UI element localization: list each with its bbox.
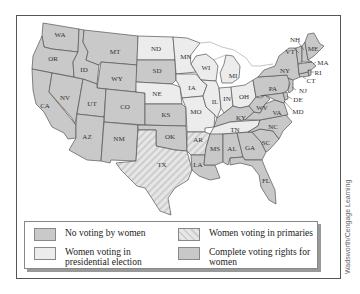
label-va: VA [272,109,281,117]
legend-swatch-complete [178,247,200,260]
label-pa: PA [269,85,277,93]
label-ky: KY [236,114,246,122]
legend-swatch-primaries [178,228,200,241]
label-ny: NY [280,67,290,75]
label-nm: NM [113,135,125,143]
label-nj: NJ [299,87,307,95]
image-credit: Wadsworth/Cengage Learning [344,180,351,274]
label-az: AZ [82,133,91,141]
label-ks: KS [162,111,171,119]
legend-item-presidential: Women voting in presidential election [34,247,175,267]
label-vt: VT [285,48,295,56]
legend-item-no-voting: No voting by women [34,228,175,241]
label-mo: MO [190,108,201,116]
label-in: IN [223,95,230,103]
map-legend: No voting by women Women voting in prima… [24,221,318,269]
label-sd: SD [153,67,162,75]
legend-item-primaries: Women voting in primaries [178,228,334,241]
label-oh: OH [239,93,249,101]
label-tx: TX [157,161,166,169]
label-nd: ND [151,45,161,53]
label-id: ID [80,66,87,74]
label-ms: MS [210,145,220,153]
label-ia: IA [188,84,195,92]
label-il: IL [212,98,219,106]
legend-label: No voting by women [65,228,175,238]
legend-label: Women voting in presidential election [65,247,175,267]
label-fl: FL [262,177,270,185]
label-mt: MT [110,48,121,56]
label-al: AL [227,145,236,153]
legend-label: Complete voting rights for women [209,247,319,267]
label-nc: NC [268,123,278,131]
label-sc: SC [262,139,271,147]
label-de: DE [293,96,302,104]
label-me: ME [308,45,319,53]
label-wy: WY [111,75,123,83]
label-nv: NV [60,94,70,102]
legend-label: Women voting in primaries [209,228,334,238]
label-tn: TN [230,126,239,134]
label-wa: WA [55,31,66,39]
label-ri: RI [315,69,323,77]
label-co: CO [120,103,130,111]
label-ok: OK [165,133,175,141]
label-md: MD [292,108,303,116]
legend-swatch-presidential [34,247,56,260]
label-mn: MN [180,53,191,61]
legend-item-complete: Complete voting rights for women [178,247,319,267]
label-wv: WV [256,104,268,112]
label-ga: GA [245,144,255,152]
label-ct: CT [307,77,317,85]
label-ut: UT [87,100,97,108]
label-la: LA [193,161,202,169]
label-ca: CA [40,102,50,110]
label-wi: WI [202,64,212,72]
label-ar: AR [193,136,203,144]
label-ne: NE [152,90,161,98]
label-or: OR [48,55,58,63]
label-ma: MA [317,59,328,67]
label-mi: MI [229,72,238,80]
label-nh: NH [290,36,300,44]
legend-swatch-no-voting [34,228,56,241]
